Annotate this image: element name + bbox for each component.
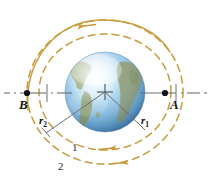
point-b-marker [24,90,30,96]
label-radius-r2: r2 [39,115,47,129]
point-a-marker [162,90,168,96]
label-point-b: B [19,98,28,111]
label-orbit-2: 2 [58,161,64,172]
orbit-diagram: B A r2 r1 1 2 [0,0,210,183]
label-point-a: A [170,98,179,111]
diagram-canvas [0,0,210,183]
label-radius-r2-subscript: 2 [43,120,47,129]
label-orbit-1: 1 [72,142,78,153]
label-radius-r1-subscript: 1 [145,120,149,129]
label-radius-r1: r1 [141,115,149,129]
